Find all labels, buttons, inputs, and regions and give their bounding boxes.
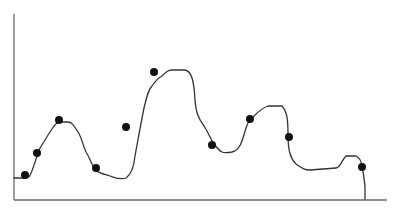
data-point: [21, 171, 29, 179]
data-point: [150, 68, 158, 76]
data-point: [55, 116, 63, 124]
line-chart: [0, 0, 400, 215]
data-point: [208, 141, 216, 149]
data-curve: [14, 70, 365, 199]
data-point: [246, 115, 254, 123]
data-point: [358, 163, 366, 171]
data-point: [122, 123, 130, 131]
data-point: [285, 133, 293, 141]
data-point: [92, 164, 100, 172]
data-point: [33, 149, 41, 157]
